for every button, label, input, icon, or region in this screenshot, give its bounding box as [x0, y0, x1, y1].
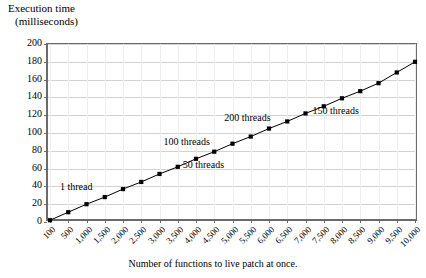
chart-figure: Execution time (milliseconds) 2001801601… — [0, 0, 426, 278]
y-tick-label: 20 — [2, 198, 42, 208]
y-tick-label: 100 — [2, 127, 42, 137]
y-tick-label: 160 — [2, 74, 42, 84]
data-point-marker — [48, 218, 52, 222]
data-point-marker — [376, 81, 380, 85]
data-point-marker — [103, 195, 107, 199]
chart-annotation: 100 threads — [164, 137, 210, 147]
data-point-marker — [249, 134, 253, 138]
data-point-marker — [358, 89, 362, 93]
y-axis-title-line2: (milliseconds) — [8, 15, 78, 28]
plot-area — [46, 43, 417, 221]
y-axis-title-line1: Execution time — [8, 2, 75, 14]
data-point-marker — [121, 187, 125, 191]
data-series-line — [47, 44, 418, 222]
data-point-marker — [176, 165, 180, 169]
y-tick-label: 200 — [2, 38, 42, 48]
y-tick-label: 40 — [2, 180, 42, 190]
y-tick-label: 120 — [2, 109, 42, 119]
data-point-marker — [413, 60, 417, 64]
y-tick-label: 0 — [2, 216, 42, 226]
data-point-marker — [267, 126, 271, 130]
y-tick-label: 140 — [2, 91, 42, 101]
y-tick-label: 80 — [2, 145, 42, 155]
data-point-marker — [303, 111, 307, 115]
y-axis-title: Execution time (milliseconds) — [8, 2, 78, 28]
data-point-marker — [285, 119, 289, 123]
data-point-marker — [230, 142, 234, 146]
data-point-marker — [395, 70, 399, 74]
data-point-marker — [139, 180, 143, 184]
data-point-marker — [340, 96, 344, 100]
data-point-marker — [157, 172, 161, 176]
data-point-marker — [212, 150, 216, 154]
y-tick-label: 180 — [2, 56, 42, 66]
chart-annotation: 1 thread — [60, 182, 93, 192]
y-tick-mark — [44, 222, 47, 223]
y-tick-label: 60 — [2, 163, 42, 173]
data-point-marker — [66, 210, 70, 214]
chart-annotation: 50 threads — [183, 160, 224, 170]
chart-annotation: 150 threads — [313, 106, 359, 116]
x-axis-title: Number of functions to live patch at onc… — [0, 258, 426, 269]
chart-annotation: 200 threads — [224, 113, 270, 123]
data-point-marker — [84, 202, 88, 206]
